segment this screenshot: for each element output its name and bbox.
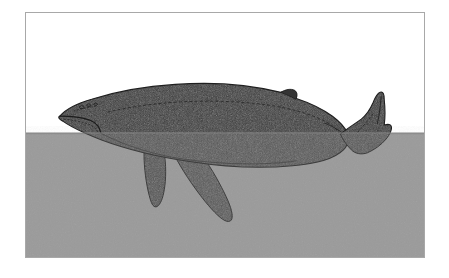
whale-scene	[26, 13, 424, 257]
illustration-canvas: Humpback whale swimming at the water sur…	[0, 0, 449, 278]
waterline	[26, 132, 424, 133]
water-haze-overlay	[26, 133, 424, 257]
illustration-frame	[25, 12, 425, 258]
image-title: Humpback whale swimming at the water sur…	[25, 262, 197, 271]
caption-zone: Humpback whale swimming at the water sur…	[25, 262, 425, 272]
